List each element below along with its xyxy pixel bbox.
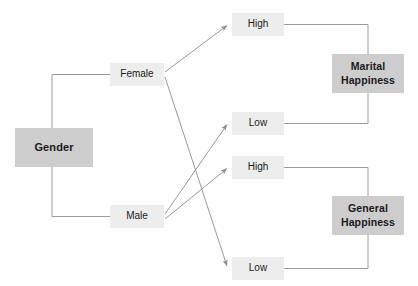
node-female[interactable]: Female xyxy=(110,63,164,86)
edge-female-to-marital-high xyxy=(165,26,227,73)
node-gender-label: Gender xyxy=(34,141,73,155)
node-general-low[interactable]: Low xyxy=(232,257,284,280)
node-marital-high-label: High xyxy=(248,18,269,31)
edge-male-to-marital-low xyxy=(165,125,227,215)
node-male-label: Male xyxy=(126,210,148,223)
node-marital-happiness[interactable]: Marital Happiness xyxy=(332,54,404,93)
node-general-high[interactable]: High xyxy=(232,156,284,179)
edge-female-to-general-low xyxy=(165,77,227,266)
node-general-low-label: Low xyxy=(249,262,267,275)
path-diagram: Gender Female Male High Low High Low Mar… xyxy=(0,0,418,286)
node-general-high-label: High xyxy=(248,161,269,174)
node-male[interactable]: Male xyxy=(110,205,164,228)
node-female-label: Female xyxy=(120,68,153,81)
node-marital-low-label: Low xyxy=(249,117,267,130)
node-general-happiness-label: General Happiness xyxy=(341,202,395,228)
edge-male-to-general-high xyxy=(165,169,227,220)
node-marital-low[interactable]: Low xyxy=(232,112,284,135)
node-marital-high[interactable]: High xyxy=(232,13,284,36)
node-marital-happiness-label: Marital Happiness xyxy=(341,60,395,86)
node-general-happiness[interactable]: General Happiness xyxy=(332,196,404,235)
node-gender[interactable]: Gender xyxy=(15,128,93,167)
